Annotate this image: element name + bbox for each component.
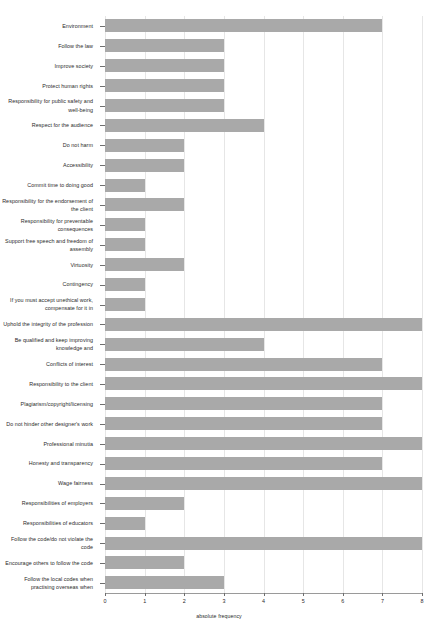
category-label-text: Responsibility for the endorsement of th… (0, 197, 93, 213)
x-tick-mark (303, 593, 304, 596)
category-label-text: Protect human rights (42, 82, 93, 90)
y-axis-tick-label: Follow the law (0, 36, 100, 56)
y-axis-tick-label: Responsibility for preventable consequen… (0, 215, 100, 235)
y-axis-tick-label: Conflicts of interest (0, 354, 100, 374)
category-label-text: Encourage others to follow the code (5, 559, 93, 567)
category-label-text: Accessibility (63, 161, 93, 169)
bar-row (105, 16, 422, 36)
x-tick-label: 4 (262, 598, 265, 604)
x-tick-label: 5 (302, 598, 305, 604)
category-label-text: Responsibility for public safety and wel… (0, 97, 93, 113)
bar (105, 477, 422, 490)
bar (105, 39, 224, 52)
bar-row (105, 275, 422, 295)
y-axis-tick-label: Responsibility for the endorsement of th… (0, 195, 100, 215)
bar-row (105, 394, 422, 414)
bar-row (105, 374, 422, 394)
y-axis-tick-label: Do not harm (0, 135, 100, 155)
bar (105, 159, 184, 172)
y-axis-tick-label: Respect for the audience (0, 115, 100, 135)
category-label-text: Contingency (62, 280, 93, 288)
category-label-text: Wage fairness (58, 479, 93, 487)
bar-row (105, 235, 422, 255)
bar (105, 99, 224, 112)
x-tick-mark (105, 593, 106, 596)
bar (105, 79, 224, 92)
y-axis-tick-label: Support free speech and freedom of assem… (0, 235, 100, 255)
category-label-text: Be qualified and keep improving knowledg… (0, 336, 93, 352)
category-label-text: Follow the code/do not violate the code (0, 535, 93, 551)
bar (105, 556, 184, 569)
bar-row (105, 215, 422, 235)
y-axis-tick-label: Encourage others to follow the code (0, 553, 100, 573)
x-tick-label: 1 (143, 598, 146, 604)
bar-row (105, 354, 422, 374)
y-axis-tick-label: Accessibility (0, 155, 100, 175)
y-axis-tick-label: Honesty and transparency (0, 454, 100, 474)
bar (105, 278, 145, 291)
bar (105, 318, 422, 331)
category-label-text: Respect for the audience (32, 121, 93, 129)
category-label-text: Improve society (55, 62, 94, 70)
x-tick-mark (224, 593, 225, 596)
bar (105, 59, 224, 72)
bar (105, 377, 422, 390)
bar-row (105, 115, 422, 135)
gridline (422, 16, 423, 593)
x-axis-title: absolute frequency (0, 613, 438, 619)
bar-row (105, 76, 422, 96)
bar (105, 397, 382, 410)
category-label-text: Responsibility to the client (29, 380, 93, 388)
x-tick-mark (422, 593, 423, 596)
bar (105, 358, 382, 371)
bar-row (105, 533, 422, 553)
bar (105, 497, 184, 510)
category-label-text: Responsibilities of employers (22, 499, 93, 507)
bar-row (105, 513, 422, 533)
bar-row (105, 553, 422, 573)
category-label-text: Responsibilities of educators (23, 519, 93, 527)
bar-row (105, 414, 422, 434)
y-axis-tick-label: Protect human rights (0, 76, 100, 96)
y-axis-tick-label: Plagiarism/copyright/licensing (0, 394, 100, 414)
category-label-text: Commit time to doing good (27, 181, 93, 189)
category-label-text: Honesty and transparency (29, 459, 93, 467)
category-label-text: If you must accept unethical work, compe… (0, 296, 93, 312)
bar (105, 258, 184, 271)
bar-row (105, 56, 422, 76)
bar-row (105, 175, 422, 195)
bar (105, 218, 145, 231)
y-axis-tick-label: Wage fairness (0, 473, 100, 493)
category-label-text: Do not harm (63, 141, 93, 149)
category-label-text: Follow the law (58, 42, 93, 50)
bar (105, 576, 224, 589)
category-label-text: Environment (62, 22, 93, 30)
bar-row (105, 434, 422, 454)
category-label-text: Follow the local codes when practising o… (0, 575, 93, 591)
x-tick-mark (382, 593, 383, 596)
bar-rows (105, 16, 422, 593)
x-tick-mark (145, 593, 146, 596)
bar-row (105, 314, 422, 334)
y-axis-tick-label: Commit time to doing good (0, 175, 100, 195)
y-axis-tick-label: Follow the local codes when practising o… (0, 573, 100, 593)
y-axis-tick-label: Contingency (0, 275, 100, 295)
bar (105, 139, 184, 152)
bar-row (105, 493, 422, 513)
bar (105, 298, 145, 311)
y-axis-tick-label: Be qualified and keep improving knowledg… (0, 334, 100, 354)
bar (105, 517, 145, 530)
bar (105, 238, 145, 251)
y-axis-tick-label: Environment (0, 16, 100, 36)
y-axis-tick-label: Responsibility to the client (0, 374, 100, 394)
bar-row (105, 96, 422, 116)
y-axis-tick-label: Do not hinder other designer's work (0, 414, 100, 434)
category-label-text: Responsibility for preventable consequen… (0, 217, 93, 233)
bar-row (105, 195, 422, 215)
y-axis-tick-label: Virtuosity (0, 255, 100, 275)
x-tick-mark (343, 593, 344, 596)
plot-area (105, 16, 422, 593)
y-axis-tick-label: Responsibility for public safety and wel… (0, 96, 100, 116)
bar-row (105, 454, 422, 474)
bar-row (105, 36, 422, 56)
